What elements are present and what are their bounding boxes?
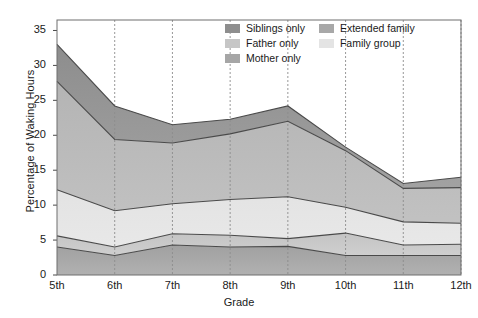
legend-swatch — [319, 24, 334, 33]
legend-label: Mother only — [246, 52, 301, 64]
chart-legend: Siblings onlyExtended familyFather onlyF… — [225, 22, 415, 64]
legend-item: Extended family — [319, 22, 415, 34]
legend-swatch — [319, 39, 334, 48]
legend-swatch — [225, 54, 240, 63]
legend-swatch — [225, 24, 240, 33]
legend-item: Father only — [225, 37, 305, 49]
legend-item: Mother only — [225, 52, 305, 64]
stacked-area-chart: Percentage of Waking Hours Grade 0510152… — [0, 0, 478, 318]
legend-label: Siblings only — [246, 22, 305, 34]
legend-label: Family group — [340, 37, 401, 49]
legend-label: Father only — [246, 37, 299, 49]
legend-item: Siblings only — [225, 22, 305, 34]
legend-item: Family group — [319, 37, 415, 49]
area-bands — [57, 44, 461, 275]
axis-ticks — [53, 30, 57, 275]
legend-swatch — [225, 39, 240, 48]
legend-label: Extended family — [340, 22, 415, 34]
